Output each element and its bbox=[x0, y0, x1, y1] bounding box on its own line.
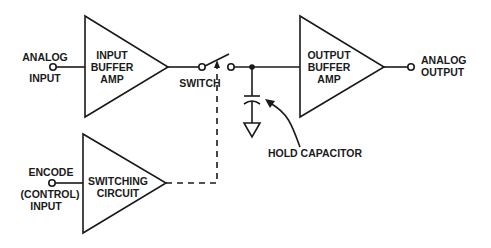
hold-cap-pointer bbox=[270, 103, 300, 147]
switch-terminal-right bbox=[228, 64, 234, 70]
encode-label-2: (CONTROL) bbox=[21, 188, 80, 200]
hold-cap-arrow-icon bbox=[265, 99, 275, 108]
analog-output-label-1: ANALOG bbox=[421, 54, 467, 66]
output-buffer-label-1: OUTPUT bbox=[307, 49, 351, 61]
encode-label-3: INPUT bbox=[30, 200, 62, 212]
output-buffer-label-2: BUFFER bbox=[308, 61, 351, 73]
encode-label-1: ENCODE bbox=[29, 166, 74, 178]
input-buffer-label-1: INPUT bbox=[96, 49, 128, 61]
switching-circuit-label-2: CIRCUIT bbox=[97, 187, 140, 199]
switch-terminal-left bbox=[199, 64, 205, 70]
ground-icon bbox=[244, 123, 260, 137]
encode-input-terminal bbox=[49, 180, 55, 186]
analog-output-label-2: OUTPUT bbox=[421, 66, 465, 78]
input-buffer-label-2: BUFFER bbox=[91, 61, 134, 73]
switch-label: SWITCH bbox=[179, 77, 220, 89]
sample-hold-diagram: ANALOG INPUT INPUT BUFFER AMP SWITCH HOL… bbox=[0, 0, 491, 248]
switching-circuit-label-1: SWITCHING bbox=[88, 175, 148, 187]
output-buffer-label-3: AMP bbox=[317, 73, 340, 85]
hold-capacitor-label: HOLD CAPACITOR bbox=[268, 147, 363, 159]
analog-input-label-2: INPUT bbox=[29, 72, 61, 84]
analog-input-label-1: ANALOG bbox=[22, 51, 68, 63]
input-buffer-label-3: AMP bbox=[100, 73, 123, 85]
analog-output-terminal bbox=[408, 64, 414, 70]
analog-input-terminal bbox=[50, 64, 56, 70]
